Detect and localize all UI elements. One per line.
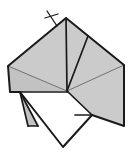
figure-canvas [0, 0, 130, 154]
cross-mark-stem [47, 11, 57, 26]
cross-mark [45, 11, 58, 26]
fold-apex-to-center [66, 18, 67, 91]
origami-figure [0, 0, 130, 154]
